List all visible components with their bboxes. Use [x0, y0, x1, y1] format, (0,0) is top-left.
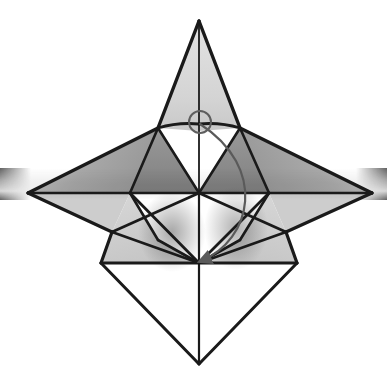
diagram-canvas: Origami crease pattern fold step Four-po…	[0, 0, 387, 379]
origami-diagram	[0, 0, 387, 379]
